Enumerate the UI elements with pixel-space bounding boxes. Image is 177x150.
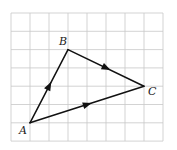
vertex-label-C: C bbox=[148, 85, 157, 98]
vertex-label-B: B bbox=[58, 35, 67, 48]
vertex-label-A: A bbox=[18, 124, 27, 137]
triangle-vector-diagram: ABC bbox=[0, 0, 177, 150]
